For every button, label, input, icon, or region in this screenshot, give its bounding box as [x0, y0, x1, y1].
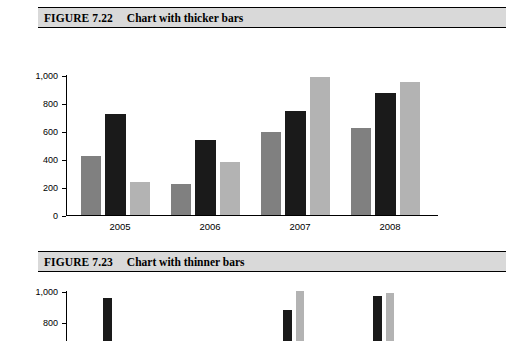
- chart-thicker-bars: 1,000 800 600 400 200 0: [0, 30, 510, 220]
- bar-2008-series3-thin: [386, 293, 394, 341]
- figure-2-bottom-rule: [38, 271, 506, 272]
- bar-group-2008-thin: [361, 291, 421, 341]
- x-category-label-2005: 2005: [81, 221, 159, 232]
- bar-2007-series1: [261, 132, 281, 215]
- bar-group-2005: [81, 75, 159, 215]
- bar-2007-series3-thin: [296, 291, 304, 341]
- bar-2005-series3: [130, 182, 150, 215]
- plot-area-1: [67, 75, 438, 215]
- bar-group-2007: [261, 75, 339, 215]
- x-category-label-2006: 2006: [171, 221, 249, 232]
- bar-2007-series2-thin: [283, 310, 292, 341]
- y-tick-label-3: 400: [12, 155, 58, 165]
- x-category-label-2008: 2008: [351, 221, 429, 232]
- figure-1-title: Chart with thicker bars: [127, 12, 243, 24]
- bar-2008-series3: [400, 82, 420, 215]
- figure-2-title: Chart with thinner bars: [127, 256, 245, 268]
- bar-group-2005-thin: [91, 291, 151, 341]
- figure-1-bottom-rule: [38, 27, 506, 28]
- y-tick-label-4: 200: [12, 183, 58, 193]
- figure-1-caption: FIGURE 7.22 Chart with thicker bars: [38, 8, 506, 27]
- y-tick-label-1: 800: [12, 99, 58, 109]
- bar-2006-series2: [195, 140, 216, 215]
- y-tick-label-2: 600: [12, 127, 58, 137]
- bar-2005-series2: [105, 114, 126, 215]
- y-tick-label-1000: 1,000: [12, 287, 58, 297]
- chart-thinner-bars: 1,000 800: [0, 274, 510, 341]
- bar-2005-series1: [81, 156, 101, 216]
- bar-group-2006-thin: [181, 291, 241, 341]
- plot-area-2: [67, 291, 438, 341]
- figure-2-number: FIGURE 7.23: [44, 256, 113, 268]
- figure-2-caption: FIGURE 7.23 Chart with thinner bars: [38, 252, 506, 271]
- bar-2008-series2-thin: [373, 296, 382, 341]
- x-axis-line: [66, 215, 438, 216]
- bar-2006-series1: [171, 184, 191, 216]
- bar-2007-series2: [285, 111, 306, 215]
- y-tick-label-0: 1,000: [12, 71, 58, 81]
- y-tick-label-800: 800: [12, 318, 58, 328]
- y-tick-label-5: 0: [12, 211, 58, 221]
- bar-group-2006: [171, 75, 249, 215]
- bar-group-2008: [351, 75, 429, 215]
- page: FIGURE 7.22 Chart with thicker bars 1,00…: [0, 0, 510, 341]
- bar-2007-series3: [310, 77, 330, 215]
- bar-2005-series2-thin: [103, 298, 112, 341]
- x-category-label-2007: 2007: [261, 221, 339, 232]
- bar-2008-series1: [351, 128, 371, 215]
- bar-2006-series3: [220, 162, 240, 215]
- bar-group-2007-thin: [271, 291, 331, 341]
- figure-1-number: FIGURE 7.22: [44, 12, 113, 24]
- bar-2008-series2: [375, 93, 396, 215]
